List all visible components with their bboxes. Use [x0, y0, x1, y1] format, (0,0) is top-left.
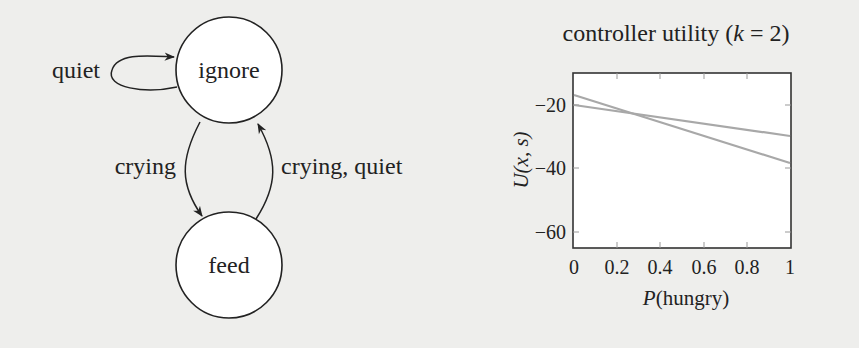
y-tick-label: −20 — [535, 94, 566, 116]
transition-crying-arrow — [185, 122, 202, 216]
state-feed: feed — [176, 212, 282, 318]
transition-crying-quiet-arrow — [256, 124, 273, 219]
utility-chart: controller utility (k = 2) −20 −40 −60 0 — [509, 20, 795, 310]
transition-quiet-loop-arrow — [111, 56, 177, 90]
x-axis-label: P(hungry) — [642, 286, 729, 310]
state-ignore-label: ignore — [198, 57, 259, 83]
y-tick-label: −60 — [535, 221, 566, 243]
x-tick-label: 1 — [785, 256, 795, 278]
transition-crying-label: crying — [115, 153, 176, 179]
x-tick-label: 0 — [569, 256, 579, 278]
state-ignore: ignore — [176, 17, 282, 123]
state-diagram: ignore feed quiet crying crying, quiet — [52, 17, 403, 318]
x-tick-label: 0.2 — [605, 256, 630, 278]
plot-area — [573, 73, 791, 248]
x-tick-label: 0.8 — [735, 256, 760, 278]
x-tick-label: 0.4 — [648, 256, 673, 278]
x-tick-label: 0.6 — [692, 256, 717, 278]
state-feed-label: feed — [208, 252, 249, 278]
figure-canvas: ignore feed quiet crying crying, quiet c… — [0, 0, 859, 348]
transition-quiet-label: quiet — [52, 57, 100, 83]
y-tick-label: −40 — [535, 157, 566, 179]
y-axis-label: U(x, s) — [509, 131, 533, 188]
figure: ignore feed quiet crying crying, quiet c… — [0, 0, 859, 348]
chart-title: controller utility (k = 2) — [563, 20, 790, 46]
transition-crying-quiet-label: crying, quiet — [281, 153, 403, 179]
